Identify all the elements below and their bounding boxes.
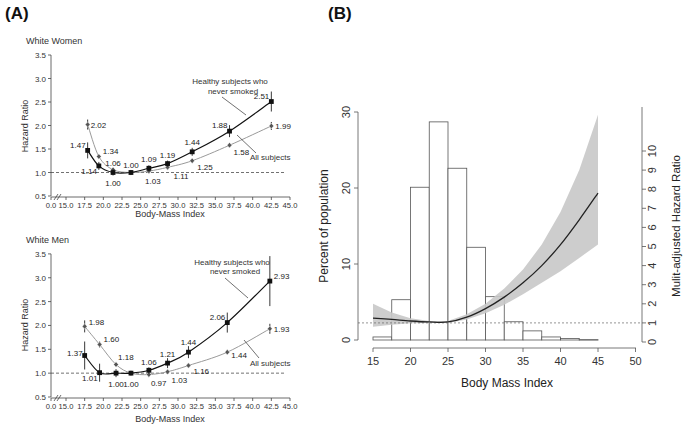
data-value-label: 1.00 bbox=[108, 380, 124, 389]
panel-b-x-label: Body Mass Index bbox=[461, 376, 553, 390]
left-y-tick-label: 20 bbox=[340, 182, 352, 194]
data-point-diamond bbox=[186, 363, 191, 369]
x-tick-label: 42.5 bbox=[264, 402, 279, 411]
x-tick-label: 45.0 bbox=[283, 201, 298, 210]
data-value-label: 1.09 bbox=[141, 155, 157, 164]
data-value-label: 1.34 bbox=[103, 147, 119, 156]
men-x-label: Body-Mass Index bbox=[135, 414, 205, 424]
data-value-label: 1.37 bbox=[67, 349, 83, 358]
histogram-bar bbox=[448, 168, 467, 340]
data-value-label: 1.44 bbox=[231, 351, 247, 360]
left-y-tick-label: 30 bbox=[340, 106, 352, 118]
histogram-bar bbox=[579, 340, 598, 341]
women-legend-healthy-2: never smoked bbox=[208, 87, 258, 96]
x-tick-label: 20.0 bbox=[96, 201, 111, 210]
right-y-tick-label: 8 bbox=[646, 186, 658, 192]
data-value-label: 1.03 bbox=[172, 376, 188, 385]
data-point-diamond bbox=[165, 369, 170, 375]
x-tick-label: 32.5 bbox=[189, 201, 204, 210]
data-value-label: 1.14 bbox=[81, 167, 97, 176]
men-plot-area: 1.981.601.180.971.031.161.441.931.371.01… bbox=[51, 256, 290, 389]
hazard-confidence-band bbox=[358, 115, 642, 327]
data-value-label: 1.16 bbox=[193, 367, 209, 376]
data-value-label: 1.99 bbox=[275, 122, 291, 131]
data-value-label: 1.18 bbox=[118, 353, 134, 362]
panel-b-y-left-label: Percent of population bbox=[317, 169, 331, 282]
bmi-histogram-hazard-chart: 01020300123456789101520253035404550 Body… bbox=[317, 106, 682, 390]
data-point-square bbox=[146, 166, 151, 171]
panel-b-label: (B) bbox=[328, 4, 352, 23]
data-value-label: 1.58 bbox=[234, 148, 250, 157]
data-point-diamond bbox=[225, 349, 230, 355]
right-y-tick-label: 9 bbox=[646, 167, 658, 173]
histogram-bar bbox=[523, 331, 542, 340]
right-y-tick-label: 3 bbox=[646, 282, 658, 288]
left-y-tick-label: 0 bbox=[340, 337, 352, 343]
women-legend-healthy-1: Healthy subjects who bbox=[192, 77, 268, 86]
x-tick-label: 35.0 bbox=[208, 201, 223, 210]
data-value-label: 1.88 bbox=[212, 121, 228, 130]
women-title: White Women bbox=[26, 36, 82, 46]
data-value-label: 1.19 bbox=[160, 151, 176, 160]
x-tick-label: 15 bbox=[367, 355, 379, 367]
data-value-label: 2.02 bbox=[91, 121, 107, 130]
x-tick-label: 37.5 bbox=[227, 402, 242, 411]
x-tick-label: 17.5 bbox=[77, 402, 92, 411]
x-tick-label: 20 bbox=[404, 355, 416, 367]
data-value-label: 1.25 bbox=[197, 163, 213, 172]
x-tick-label: 15.0 bbox=[59, 201, 74, 210]
data-value-label: 1.06 bbox=[141, 358, 157, 367]
data-point-square bbox=[114, 371, 119, 376]
data-value-label: 1.00 bbox=[123, 380, 139, 389]
data-point-square bbox=[269, 99, 274, 104]
y-tick-label: 1.0 bbox=[35, 369, 47, 378]
y-tick-label: 2.0 bbox=[35, 321, 47, 330]
x-tick-label: 25.0 bbox=[133, 402, 148, 411]
histogram-bar bbox=[429, 122, 448, 340]
data-point-square bbox=[225, 320, 230, 325]
histogram-bar bbox=[542, 337, 561, 340]
data-value-label: 1.06 bbox=[105, 159, 121, 168]
data-point-square bbox=[129, 371, 134, 376]
y-tick-label: 1.5 bbox=[35, 345, 47, 354]
x-tick-label: 40.0 bbox=[245, 201, 260, 210]
x-tick-label: 32.5 bbox=[189, 402, 204, 411]
data-point-square bbox=[186, 350, 191, 355]
women-axes: 0.51.01.52.02.53.03.50.015.017.520.022.5… bbox=[35, 51, 298, 210]
x-tick-label: 37.5 bbox=[227, 201, 242, 210]
women-x-label: Body-Mass Index bbox=[135, 209, 205, 219]
right-y-tick-label: 7 bbox=[646, 205, 658, 211]
y-tick-label: 1.0 bbox=[35, 169, 47, 178]
y-tick-label: 2.5 bbox=[35, 98, 47, 107]
data-value-label: 1.00 bbox=[123, 161, 139, 170]
data-value-label: 1.44 bbox=[184, 138, 200, 147]
data-point-square bbox=[267, 279, 272, 284]
right-y-tick-label: 1 bbox=[646, 320, 658, 326]
y-tick-label: 3.5 bbox=[35, 51, 47, 60]
data-point-diamond bbox=[85, 122, 90, 128]
panel-a-label: (A) bbox=[5, 4, 29, 23]
x-tick-label: 35 bbox=[517, 355, 529, 367]
women-legend-healthy-pointer bbox=[222, 97, 246, 115]
data-value-label: 1.00 bbox=[105, 179, 121, 188]
x-tick-label: 22.5 bbox=[115, 402, 130, 411]
y-tick-label: 0.5 bbox=[35, 192, 47, 201]
men-legend-all: All subjects bbox=[250, 359, 290, 368]
right-y-tick-label: 0 bbox=[646, 339, 658, 345]
right-y-tick-label: 4 bbox=[646, 263, 658, 269]
data-value-label: 2.93 bbox=[274, 272, 290, 281]
x-tick-label: 30 bbox=[479, 355, 491, 367]
panel-b-y-right-label: Mulit-adjusted Hazard Ratio bbox=[670, 155, 682, 297]
men-legend-healthy-pointer bbox=[225, 278, 248, 298]
x-tick-label: 35.0 bbox=[208, 402, 223, 411]
x-tick-label: 22.5 bbox=[115, 201, 130, 210]
y-tick-label: 2.0 bbox=[35, 122, 47, 131]
y-tick-label: 3.0 bbox=[35, 75, 47, 84]
men-hazard-chart: White Men Hazard Ratio Body-Mass Index 0… bbox=[20, 235, 297, 424]
histogram-bar bbox=[467, 247, 486, 340]
right-y-tick-label: 6 bbox=[646, 224, 658, 230]
men-y-label: Hazard Ratio bbox=[20, 299, 30, 352]
data-point-square bbox=[111, 170, 116, 175]
data-value-label: 1.21 bbox=[160, 350, 176, 359]
data-point-square bbox=[165, 361, 170, 366]
